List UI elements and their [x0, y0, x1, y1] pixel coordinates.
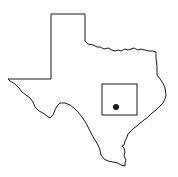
location-dot-icon	[113, 104, 119, 110]
texas-outline	[8, 14, 166, 166]
texas-locator-map: Texas	[0, 0, 178, 177]
highlight-box	[102, 84, 137, 115]
map-canvas	[0, 0, 178, 177]
